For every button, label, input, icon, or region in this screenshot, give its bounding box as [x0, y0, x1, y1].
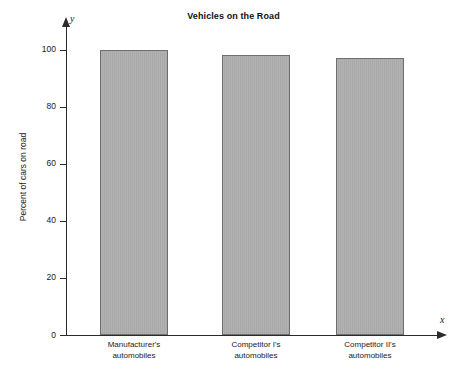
bar — [336, 58, 404, 335]
category-label: Competitor I'sautomobiles — [196, 339, 316, 361]
category-label-line: Manufacturer's — [74, 339, 194, 350]
category-label-line: automobiles — [196, 350, 316, 361]
bars-group — [0, 0, 467, 378]
bar-chart-figure: Vehicles on the Road y x Percent of cars… — [0, 0, 467, 378]
category-label-line: automobiles — [310, 350, 430, 361]
category-label-line: Competitor I's — [196, 339, 316, 350]
category-label: Competitor II'sautomobiles — [310, 339, 430, 361]
category-label-line: automobiles — [74, 350, 194, 361]
category-label-line: Competitor II's — [310, 339, 430, 350]
bar — [222, 55, 290, 335]
category-label: Manufacturer'sautomobiles — [74, 339, 194, 361]
bar — [100, 50, 168, 335]
